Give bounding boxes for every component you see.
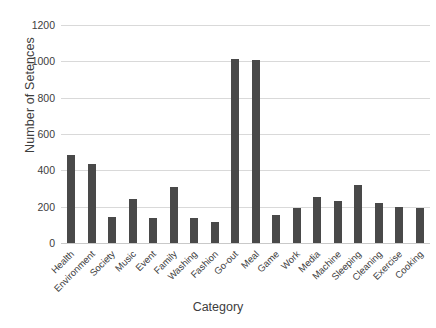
bar <box>395 207 403 243</box>
bar <box>129 199 137 244</box>
bar <box>293 208 301 243</box>
bar-slot <box>102 25 123 243</box>
bar-slot <box>143 25 164 243</box>
bar-slot <box>246 25 267 243</box>
bar-slot <box>123 25 144 243</box>
bar <box>190 218 198 243</box>
bar-slot <box>184 25 205 243</box>
bar <box>170 187 178 243</box>
x-label-slot: Go-out <box>225 245 246 300</box>
y-axis-tick-label: 800 <box>0 92 55 103</box>
bar-chart: Number of Setences 120010008006004002000… <box>0 0 436 328</box>
bar-slot <box>205 25 226 243</box>
bar <box>108 217 116 243</box>
gridline <box>61 243 430 244</box>
bar <box>354 185 362 243</box>
bar-slot <box>287 25 308 243</box>
bar <box>67 155 75 243</box>
y-axis-tick-label: 0 <box>0 238 55 249</box>
y-axis-tick-label: 1000 <box>0 56 55 67</box>
bar <box>252 60 260 243</box>
bar-slot <box>348 25 369 243</box>
bar <box>375 203 383 243</box>
bar <box>334 201 342 243</box>
bar <box>313 197 321 243</box>
y-axis-tick-label: 600 <box>0 129 55 140</box>
bar-slot <box>225 25 246 243</box>
bar <box>149 218 157 243</box>
x-label-slot: Game <box>266 245 287 300</box>
bar-slot <box>389 25 410 243</box>
bar-slot <box>82 25 103 243</box>
y-axis-tick-label: 200 <box>0 201 55 212</box>
bar <box>416 208 424 243</box>
bar <box>88 164 96 243</box>
bar-slot <box>307 25 328 243</box>
x-axis-title: Category <box>0 300 436 314</box>
bar-slot <box>266 25 287 243</box>
plot-area: 120010008006004002000 <box>61 25 430 243</box>
y-axis-tick-label: 400 <box>0 165 55 176</box>
bar <box>272 215 280 243</box>
bar-slot <box>369 25 390 243</box>
bar-slot <box>61 25 82 243</box>
bar <box>211 222 219 243</box>
x-axis-tick-labels: HealthEnvironmentSocietyMusicEventFamily… <box>61 245 430 300</box>
bar <box>231 59 239 243</box>
bar-slot <box>164 25 185 243</box>
y-axis-tick-label: 1200 <box>0 20 55 31</box>
bar-slot <box>410 25 431 243</box>
bar-slot <box>328 25 349 243</box>
bar-series <box>61 25 430 243</box>
x-label-slot: Cooking <box>410 245 431 300</box>
